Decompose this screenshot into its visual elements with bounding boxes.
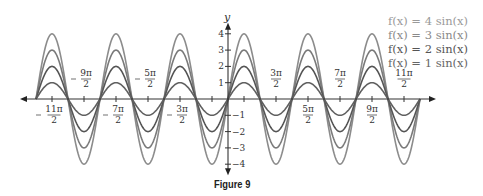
x-tick-label-numerator: 11π: [45, 104, 62, 114]
x-tick-label-numerator: 9π: [80, 68, 92, 78]
x-axis-right-arrow: [429, 96, 436, 102]
y-tick-label: 4: [218, 29, 224, 39]
x-tick-label-denominator: 2: [337, 79, 343, 89]
y-axis-label: y: [223, 11, 231, 24]
x-axis-left-arrow: [20, 96, 27, 102]
x-tick-label-numerator: 5π: [302, 104, 314, 114]
x-tick-label-denominator: 2: [273, 79, 279, 89]
x-tick-label-denominator: 2: [51, 115, 57, 125]
x-tick-label-numerator: 5π: [144, 68, 156, 78]
legend-entry: f(x) = 4 sin(x): [388, 14, 468, 28]
y-tick-label: 2: [218, 61, 224, 71]
y-tick-label: −4: [232, 159, 246, 169]
legend: f(x) = 4 sin(x)f(x) = 3 sin(x)f(x) = 2 s…: [388, 14, 468, 70]
y-axis-down-arrow: [225, 168, 231, 175]
y-tick-label: −3: [232, 143, 246, 153]
x-tick-label-denominator: 2: [305, 115, 311, 125]
x-tick-label-numerator: 7π: [112, 104, 124, 114]
x-tick-label-denominator: 2: [83, 79, 89, 89]
legend-entry: f(x) = 2 sin(x): [388, 42, 468, 56]
y-tick-label: 1: [218, 78, 224, 88]
x-tick-label-denominator: 2: [115, 115, 121, 125]
legend-entry: f(x) = 3 sin(x): [388, 28, 468, 42]
x-tick-label-denominator: 2: [179, 115, 185, 125]
x-tick-label-numerator: 7π: [334, 68, 346, 78]
legend-entry: f(x) = 1 sin(x): [388, 56, 468, 70]
x-tick-label-numerator: 3π: [176, 104, 188, 114]
sine-amplitude-chart: y 11π29π27π25π23π23π25π27π29π211π2 4321−…: [0, 0, 483, 196]
y-tick-label: −2: [232, 127, 245, 137]
x-tick-label-denominator: 2: [401, 79, 407, 89]
figure-caption: Figure 9: [214, 178, 250, 190]
x-tick-label-denominator: 2: [369, 115, 375, 125]
x-tick-label-denominator: 2: [147, 79, 153, 89]
y-axis-up-arrow: [225, 23, 231, 30]
y-tick-label: 3: [218, 45, 224, 55]
y-tick-label: −1: [232, 110, 245, 120]
x-tick-label-numerator: 9π: [366, 104, 378, 114]
x-tick-label-numerator: 3π: [270, 68, 282, 78]
